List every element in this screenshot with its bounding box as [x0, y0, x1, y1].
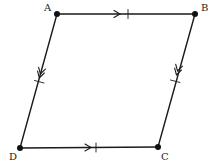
vertex-d-dot [17, 145, 23, 151]
vertex-c-dot [155, 144, 161, 150]
vertex-a-dot [54, 11, 60, 17]
equal-tick-icon [171, 80, 181, 83]
vertex-c-label: C [161, 151, 169, 162]
side-da [20, 14, 57, 148]
vertex-b-dot [192, 11, 198, 17]
parallelogram-diagram: A B C D [0, 0, 212, 164]
side-bc [158, 14, 195, 147]
vertex-a-label: A [43, 2, 52, 13]
vertex-b-label: B [201, 2, 208, 13]
vertex-d-label: D [9, 151, 17, 162]
side-cd [20, 147, 158, 148]
